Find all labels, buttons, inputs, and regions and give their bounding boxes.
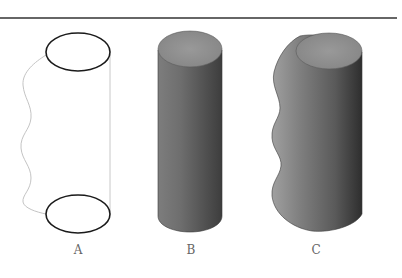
panel-b-shaded-cylinder: B: [158, 31, 222, 257]
cylinder-body: [158, 50, 222, 232]
cylinder-top-face: [158, 31, 222, 67]
bottom-ellipse: [46, 195, 110, 233]
surfaces-figure: A B C: [0, 0, 402, 278]
wavy-profile-curve: [21, 55, 46, 214]
panel-a-wireframe-cylinder: A: [21, 33, 110, 257]
top-ellipse: [46, 33, 110, 71]
surface-top-face: [296, 33, 362, 69]
label-c: C: [311, 243, 320, 257]
panel-c-wavy-surface: C: [272, 33, 362, 257]
label-b: B: [187, 243, 196, 257]
label-a: A: [73, 243, 83, 257]
